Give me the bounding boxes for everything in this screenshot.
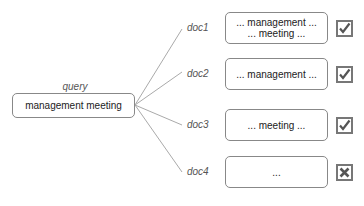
- doc-box-2: ... management ...: [225, 58, 328, 90]
- doc-snippet-line2: ... meeting ...: [248, 28, 306, 39]
- doc-box-1: ... management ... ... meeting ...: [225, 12, 328, 44]
- query-label: query: [60, 81, 90, 92]
- doc-snippet-line1: ...: [272, 167, 280, 178]
- doc-snippet-line1: ... meeting ...: [248, 120, 306, 131]
- doc-box-3: ... meeting ...: [225, 109, 328, 141]
- doc-box-4: ...: [225, 156, 328, 188]
- checkbox-checked-icon: [336, 20, 353, 37]
- doc-label-1: doc1: [187, 22, 209, 33]
- checkbox-checked-icon: [336, 66, 353, 83]
- doc-snippet-line1: ... management ...: [236, 17, 317, 28]
- doc-label-2: doc2: [187, 68, 209, 79]
- checkbox-checked-icon: [336, 117, 353, 134]
- doc-label-4: doc4: [187, 166, 209, 177]
- doc-label-3: doc3: [187, 119, 209, 130]
- checkbox-x-icon: [336, 164, 353, 181]
- doc-snippet-line1: ... management ...: [236, 69, 317, 80]
- query-box: management meeting: [12, 93, 135, 118]
